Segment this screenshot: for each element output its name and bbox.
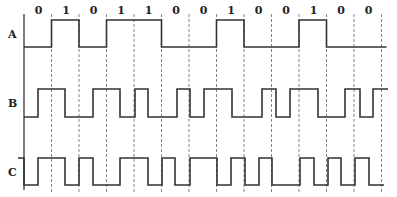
bit-label: 0 [337,4,345,17]
bit-label: 0 [255,4,263,17]
bit-label: 1 [310,4,318,17]
bit-label: 0 [172,4,180,17]
bit-label: 0 [365,4,373,17]
bit-label: 0 [200,4,208,17]
waveform-diagram: 0101100100100 A B C [0,0,397,197]
bit-label: 1 [117,4,125,17]
signal-label-c: C [8,166,17,179]
signal-label-b: B [8,97,17,110]
bit-label: 1 [145,4,153,17]
waveform-a [24,20,387,47]
waveform-c [18,158,384,185]
bit-label: 0 [35,4,43,17]
bit-label: 0 [282,4,290,17]
bit-label: 0 [90,4,98,17]
signal-label-a: A [7,28,17,41]
bit-label: 1 [227,4,235,17]
waveform-b [24,89,388,117]
bit-label: 1 [62,4,70,17]
timing-diagram-canvas: 0101100100100 A B C [0,0,397,197]
bit-labels: 0101100100100 [35,4,373,17]
